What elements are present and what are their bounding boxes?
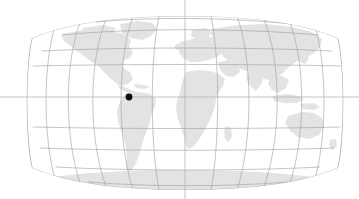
map-canvas: [0, 0, 359, 199]
world-locator-map: [0, 0, 359, 199]
location-marker[interactable]: [126, 94, 133, 101]
